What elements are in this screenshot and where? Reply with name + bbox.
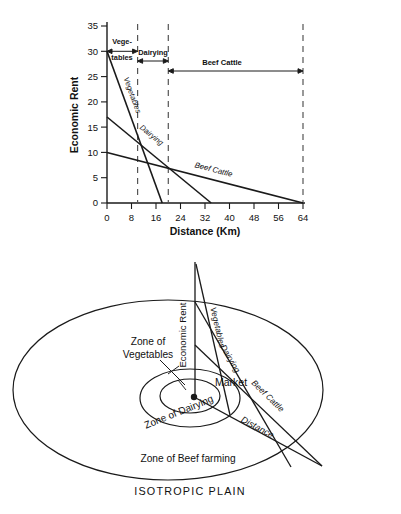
- isotropic-plain-label: ISOTROPIC PLAIN: [134, 485, 246, 497]
- y-tick-label: 15: [87, 122, 98, 133]
- line-vegetables: [107, 51, 162, 203]
- y-tick-label: 10: [87, 147, 98, 158]
- x-tick-label: 40: [224, 212, 235, 223]
- bracket-dairying: [138, 59, 169, 64]
- zone-dairying-label: Zone of Dairying: [143, 393, 215, 431]
- x-tick-label: 16: [151, 212, 162, 223]
- distance-label: Distance: [239, 415, 275, 441]
- curve-label-dairying: Dairying: [138, 123, 166, 148]
- y-tick-label: 5: [93, 172, 98, 183]
- bid-rent-chart: 0 5 10 15 20 25 30 35 0 8 16 24 32: [0, 0, 401, 250]
- y-tick-label: 0: [93, 197, 98, 208]
- y-axis-title: Economic Rent: [68, 76, 80, 153]
- surface-label-beef-cattle: Beef Cattle: [250, 378, 287, 414]
- rent-axis-label: Economic Rent: [177, 302, 188, 367]
- x-tick-label: 24: [175, 212, 186, 223]
- y-tick-label: 20: [87, 96, 98, 107]
- line-beef-cattle: [107, 152, 303, 203]
- zone-vegetables-label-line1: Zone of: [131, 336, 166, 347]
- zone-beef-label: Zone of Beef farming: [140, 453, 235, 464]
- surface-label-vegetables: Vegetables: [208, 306, 227, 350]
- y-tick-label: 35: [87, 20, 98, 31]
- y-tick-group: [101, 26, 107, 203]
- rent-surface-lines: [194, 264, 322, 467]
- bracket-label-vegetables-line1: Vege-: [112, 37, 132, 46]
- x-tick-label: 56: [273, 212, 284, 223]
- bid-rent-lines: [107, 51, 303, 203]
- y-tick-labels: 0 5 10 15 20 25 30 35: [87, 20, 98, 208]
- x-axis-title: Distance (Km): [170, 225, 241, 237]
- isotropic-plain-diagram: Economic Rent Vegetables Dairying Beef C…: [0, 250, 401, 514]
- x-tick-group: [107, 203, 303, 209]
- x-tick-label: 48: [249, 212, 260, 223]
- bracket-beef-cattle: [168, 69, 303, 74]
- x-tick-labels: 0 8 16 24 32 40 48 56 64: [104, 212, 308, 223]
- x-tick-label: 32: [200, 212, 211, 223]
- x-tick-label: 64: [298, 212, 309, 223]
- y-tick-label: 25: [87, 71, 98, 82]
- x-tick-label: 8: [129, 212, 134, 223]
- bracket-label-dairying: Dairying: [138, 48, 168, 57]
- x-tick-label: 0: [104, 212, 109, 223]
- market-label: Market: [215, 376, 247, 388]
- bracket-label-beef-cattle: Beef Cattle: [202, 58, 242, 67]
- von-thunen-figure: 0 5 10 15 20 25 30 35 0 8 16 24 32: [0, 0, 401, 514]
- bracket-label-vegetables-line2: tables: [111, 53, 132, 62]
- y-tick-label: 30: [87, 46, 98, 57]
- zone-vegetables-label-line2: Vegetables: [123, 349, 173, 360]
- surface-label-dairying: Dairying: [219, 343, 243, 375]
- curve-label-vegetables: Vegetables: [122, 76, 143, 115]
